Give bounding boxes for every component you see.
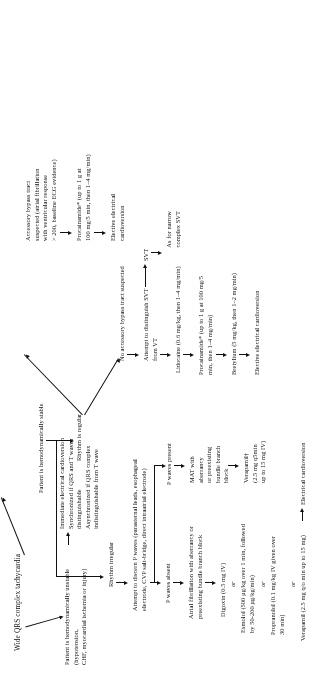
- node-atrial-fibrillation: Atrial fibrillation with aberrancy or pr…: [187, 507, 204, 619]
- node-unstable-condition: Patient is hemodynamically unstable (hyp…: [63, 547, 89, 665]
- edge-distinguish-to-svt: [145, 267, 146, 287]
- edge-discern-to-p-present-horizontal: [154, 465, 155, 583]
- edge-stable-stem: [46, 440, 56, 441]
- node-discern-p-waves: Attempt to discern P waves (parasternal …: [131, 451, 148, 611]
- edge-lidocaine-to-procainamide-arrowhead: [190, 353, 194, 357]
- edge-unstable-to-treatment-arrowhead: [66, 532, 70, 536]
- edge-procainamide-to-cardioversion-bypass-arrowhead: [102, 231, 106, 235]
- edge-verapamil-to-cardioversion-arrowhead: [300, 508, 304, 512]
- edge-p-present-to-mat-arrowhead: [181, 464, 185, 468]
- edge-afib-to-treatments-arrowhead: [212, 581, 216, 585]
- treatment-verapamil-mat: Verapamil† (2.5 mg q5min up to 15 mg IV): [242, 429, 268, 483]
- node-no-bypass-tract: No accessory bypass tract suspected: [118, 266, 127, 361]
- edge-mat-to-verapamil-arrowhead: [235, 464, 239, 468]
- node-p-waves-present: P waves present: [165, 443, 174, 485]
- edge-procainamide-to-bretylium-arrowhead: [223, 353, 227, 357]
- edge-discern-to-p-absent-arrowhead: [157, 581, 161, 585]
- node-stable-condition: Patient is hemodynamically stable: [37, 403, 46, 493]
- edge-stable-to-irregular-vertical: [56, 576, 102, 577]
- node-p-waves-absent: P waves absent: [164, 563, 173, 603]
- edge-distinguish-to-svt-arrowhead: [143, 264, 147, 268]
- node-mat-diagnosis: MAT with aberrancy or preexisting bundle…: [188, 435, 231, 483]
- node-rhythm-regular: Rhythm is regular: [75, 414, 84, 461]
- or-separator-1: or: [229, 581, 236, 587]
- treatment-bretylium: Bretylium (5 mg/kg, then 1–2 mg/min): [230, 273, 239, 375]
- or-separator-2: or: [259, 581, 266, 587]
- edge-regular-to-no-bypass: [84, 358, 119, 415]
- edge-distinguish-to-lidocaine-arrowhead: [167, 353, 171, 357]
- edge-bretylium-to-cardioversion-arrowhead: [246, 353, 250, 357]
- edge-bypass-to-procainamide-arrowhead: [68, 231, 72, 235]
- edge-svt-to-narrow-arrowhead: [158, 251, 162, 255]
- edge-irregular-to-discern-arrowhead: [124, 581, 128, 585]
- treatment-lidocaine: Lidocaine (0.6 mg/kg, then 1–4 mg/min): [174, 266, 183, 373]
- treatment-procainamide-vt: Procainamide* (up to 1 g at 100 mg/5 min…: [197, 251, 214, 375]
- treatment-electrical-cardioversion-afib: Electrical cardioversion: [299, 443, 308, 505]
- treatment-elective-cardioversion-bypass: Elective electrical cardioversion: [109, 161, 126, 241]
- edge-stable-to-regular-arrowhead: [70, 439, 74, 443]
- node-rhythm-irregular: Rhythm irregular: [107, 542, 116, 587]
- edge-stable-to-irregular-arrowhead: [100, 575, 104, 579]
- edge-root-to-stable-arrowhead: [1, 497, 6, 502]
- edge-stable-to-irregular-horizontal: [56, 440, 57, 577]
- edge-regular-to-bypass-arrowhead: [24, 353, 30, 359]
- treatment-elective-cardioversion-vt: Elective electrical cardioversion: [253, 291, 262, 375]
- treatment-esmolol: Esmolol (500 µg/kg over 1 min, followed …: [239, 497, 256, 633]
- diagram-title: Wide QRS complex tachycardia: [13, 554, 23, 651]
- treatment-verapamil-afib: Verapamil (2.5 mg q/o min up to 15 mg): [299, 535, 308, 641]
- edge-verapamil-to-cardioversion: [302, 511, 303, 521]
- node-bypass-tract-suspected: Accessory bypass tract suspected (atrial…: [24, 119, 58, 241]
- node-distinguish-svt-vt: Attempt to distinguish SVT from VT: [142, 285, 159, 361]
- treatment-propranolol: Propranolol (0.1 mg/kg IV given over 30 …: [269, 495, 286, 635]
- node-svt-label: SVT: [142, 249, 151, 261]
- treatment-digoxin: Digoxin (0.5 mg IV): [219, 563, 228, 617]
- edge-regular-to-bypass: [24, 354, 83, 415]
- edge-root-to-stable: [1, 497, 25, 555]
- edge-unstable-to-treatment: [68, 535, 69, 545]
- node-as-for-narrow-complex-svt: As for narrow complex SVT: [165, 211, 182, 259]
- treatment-procainamide-bypass: Procainamide* (up to 1 g at 100 mg/5 min…: [75, 125, 92, 241]
- edge-no-bypass-to-distinguish-arrowhead: [135, 353, 139, 357]
- rotated-page-wrapper: Wide QRS complex tachycardia Patient is …: [0, 0, 331, 673]
- edge-root-to-unstable: [25, 616, 62, 627]
- edge-p-absent-to-afib-arrowhead: [180, 581, 184, 585]
- or-separator-3: or: [289, 581, 296, 587]
- flowchart-canvas: Wide QRS complex tachycardia Patient is …: [0, 0, 331, 673]
